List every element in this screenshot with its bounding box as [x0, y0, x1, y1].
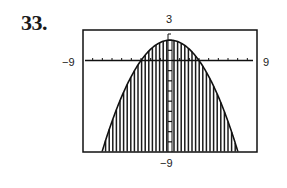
calculator-graph [0, 0, 287, 188]
